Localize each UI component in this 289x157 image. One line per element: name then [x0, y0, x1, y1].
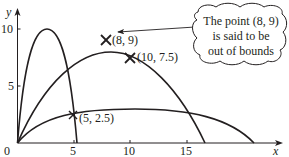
point-label-8-9: (8, 9) [112, 33, 138, 47]
cross-icon-5-2-5 [69, 111, 77, 119]
cross-icon-8-9 [101, 35, 111, 45]
origin-label: 0 [4, 144, 10, 157]
callout-line-2: is said to be [213, 29, 270, 43]
y-axis-label: y [5, 5, 12, 19]
trajectory-diagram: y x 0 5 10 15 5 10 (8, 9) (10, 7.5) [0, 0, 289, 157]
x-tick-label-5: 5 [70, 144, 76, 157]
trajectory-curve-2 [18, 52, 206, 143]
callout-line-3: out of bounds [208, 44, 274, 58]
trajectory-curve-3 [18, 109, 255, 143]
point-label-5-2-5: (5, 2.5) [79, 111, 114, 125]
point-label-10-7-5: (10, 7.5) [137, 50, 178, 64]
x-tick-label-15: 15 [180, 144, 192, 157]
callout-arrow [118, 27, 195, 32]
x-tick-label-10: 10 [123, 144, 135, 157]
y-tick-label-10: 10 [1, 22, 13, 36]
y-tick-label-5: 5 [8, 79, 14, 93]
callout-line-1: The point (8, 9) [203, 14, 278, 28]
x-axis-label: x [272, 144, 279, 157]
